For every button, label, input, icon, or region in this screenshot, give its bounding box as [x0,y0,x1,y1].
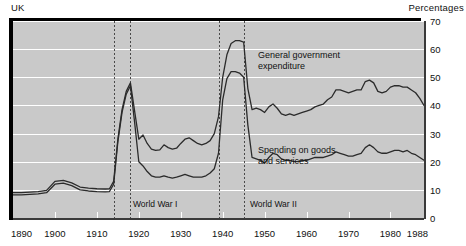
y-tick-10: 10 [430,184,441,195]
x-tick-1920: 1920 [128,228,149,239]
x-tick-1930: 1930 [170,228,191,239]
y-tick-50: 50 [430,72,441,83]
world-war-1-label: World War I [133,199,177,209]
y-tick-20: 20 [430,156,441,167]
x-tick-1988: 1988 [407,228,428,239]
x-tick-mark-1980 [390,212,391,218]
x-tick-mark-1910 [97,212,98,218]
world-war-2-label: World War II [250,199,297,209]
y-tick-0: 0 [430,213,435,224]
x-tick-1910: 1910 [86,228,107,239]
x-tick-mark-1930 [181,212,182,218]
y-tick-40: 40 [430,100,441,111]
x-axis [13,218,424,220]
x-tick-1950: 1950 [254,228,275,239]
x-tick-1960: 1960 [296,228,317,239]
x-tick-1890: 1890 [11,228,32,239]
series-lines [13,21,424,218]
x-tick-mark-1950 [265,212,266,218]
x-tick-1900: 1900 [44,228,65,239]
country-label: UK [11,2,25,13]
y-tick-70: 70 [430,16,441,27]
series-line-2 [13,72,424,195]
series-label-spending-on-goods-and-services: Spending on goods and services [258,145,336,167]
x-tick-mark-1920 [139,212,140,218]
x-tick-mark-1970 [349,212,350,218]
chart-figure: UK Percentages 010203040506070 189019001… [0,0,466,246]
y-axis [424,21,426,219]
y-tick-60: 60 [430,44,441,55]
series-label-general-government-expenditure: General government expenditure [258,50,340,72]
series-line-1 [13,41,424,193]
x-tick-mark-1960 [307,212,308,218]
units-label: Percentages [408,2,464,13]
x-tick-mark-1900 [55,212,56,218]
x-tick-1970: 1970 [338,228,359,239]
x-tick-mark-1940 [223,212,224,218]
y-tick-30: 30 [430,128,441,139]
x-tick-1940: 1940 [212,228,233,239]
plot-area [13,21,424,218]
x-tick-1980: 1980 [380,228,401,239]
